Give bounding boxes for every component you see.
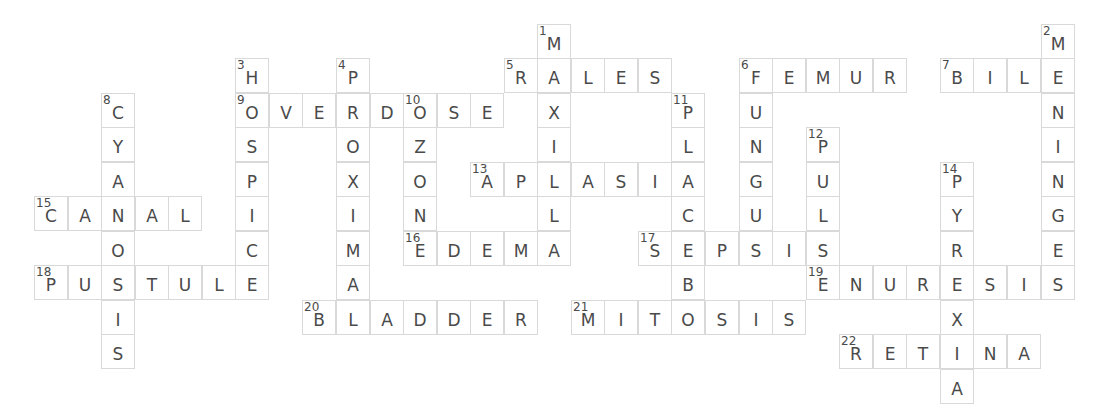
crossword-cell[interactable]: G xyxy=(739,162,773,197)
crossword-cell[interactable]: I xyxy=(604,300,638,335)
crossword-cell[interactable]: A xyxy=(336,265,370,300)
crossword-cell[interactable]: N xyxy=(839,265,873,300)
crossword-cell[interactable]: N xyxy=(101,196,135,231)
crossword-cell[interactable]: L xyxy=(671,127,705,162)
crossword-cell[interactable]: 3H xyxy=(235,58,269,93)
crossword-cell[interactable]: 18P xyxy=(34,265,68,300)
crossword-cell[interactable]: 8C xyxy=(101,93,135,128)
crossword-cell[interactable]: M xyxy=(806,58,840,93)
crossword-cell[interactable]: E xyxy=(671,231,705,266)
crossword-cell[interactable]: I xyxy=(1041,127,1075,162)
crossword-cell[interactable]: O xyxy=(671,300,705,335)
crossword-cell[interactable]: N xyxy=(1041,93,1075,128)
crossword-cell[interactable]: I xyxy=(1007,265,1041,300)
crossword-cell[interactable]: Y xyxy=(940,196,974,231)
crossword-cell[interactable]: D xyxy=(437,300,471,335)
crossword-cell[interactable]: 7B xyxy=(940,58,974,93)
crossword-cell[interactable]: U xyxy=(839,58,873,93)
crossword-cell[interactable]: T xyxy=(135,265,169,300)
crossword-cell[interactable]: R xyxy=(504,300,538,335)
crossword-cell[interactable]: C xyxy=(671,196,705,231)
crossword-cell[interactable]: R xyxy=(906,265,940,300)
crossword-cell[interactable]: D xyxy=(437,231,471,266)
crossword-cell[interactable]: E xyxy=(470,300,504,335)
crossword-cell[interactable]: Y xyxy=(101,127,135,162)
crossword-cell[interactable]: S xyxy=(1041,265,1075,300)
crossword-cell[interactable]: S xyxy=(235,127,269,162)
crossword-cell[interactable]: V xyxy=(269,93,303,128)
crossword-cell[interactable]: I xyxy=(973,58,1007,93)
crossword-cell[interactable]: 21M xyxy=(571,300,605,335)
crossword-cell[interactable]: T xyxy=(906,334,940,369)
crossword-cell[interactable]: 20B xyxy=(302,300,336,335)
crossword-cell[interactable]: E xyxy=(1041,231,1075,266)
crossword-cell[interactable]: S xyxy=(437,93,471,128)
crossword-cell[interactable]: M xyxy=(336,231,370,266)
crossword-cell[interactable]: M xyxy=(504,231,538,266)
crossword-cell[interactable]: 2M xyxy=(1041,24,1075,59)
crossword-cell[interactable]: E xyxy=(470,93,504,128)
crossword-cell[interactable]: 5R xyxy=(504,58,538,93)
crossword-cell[interactable]: U xyxy=(168,265,202,300)
crossword-cell[interactable]: L xyxy=(806,196,840,231)
crossword-cell[interactable]: 9O xyxy=(235,93,269,128)
crossword-cell[interactable]: 17S xyxy=(638,231,672,266)
crossword-cell[interactable]: 14P xyxy=(940,162,974,197)
crossword-cell[interactable]: I xyxy=(336,196,370,231)
crossword-cell[interactable]: E xyxy=(302,93,336,128)
crossword-cell[interactable]: 22R xyxy=(839,334,873,369)
crossword-cell[interactable]: 13A xyxy=(470,162,504,197)
crossword-cell[interactable]: E xyxy=(873,334,907,369)
crossword-cell[interactable]: A xyxy=(370,300,404,335)
crossword-cell[interactable]: 11P xyxy=(671,93,705,128)
crossword-cell[interactable]: L xyxy=(202,265,236,300)
crossword-cell[interactable]: A xyxy=(671,162,705,197)
crossword-cell[interactable]: 16E xyxy=(403,231,437,266)
crossword-cell[interactable]: I xyxy=(235,196,269,231)
crossword-cell[interactable]: A xyxy=(537,231,571,266)
crossword-cell[interactable]: A xyxy=(1007,334,1041,369)
crossword-cell[interactable]: X xyxy=(537,93,571,128)
crossword-cell[interactable]: A xyxy=(537,58,571,93)
crossword-cell[interactable]: I xyxy=(772,231,806,266)
crossword-cell[interactable]: S xyxy=(604,162,638,197)
crossword-cell[interactable]: S xyxy=(101,265,135,300)
crossword-cell[interactable]: L xyxy=(336,300,370,335)
crossword-cell[interactable]: N xyxy=(403,196,437,231)
crossword-cell[interactable]: L xyxy=(1007,58,1041,93)
crossword-cell[interactable]: L xyxy=(537,196,571,231)
crossword-cell[interactable]: T xyxy=(638,300,672,335)
crossword-cell[interactable]: R xyxy=(336,93,370,128)
crossword-cell[interactable]: 12P xyxy=(806,127,840,162)
crossword-cell[interactable]: S xyxy=(705,300,739,335)
crossword-cell[interactable]: N xyxy=(973,334,1007,369)
crossword-cell[interactable]: A xyxy=(68,196,102,231)
crossword-cell[interactable]: O xyxy=(101,231,135,266)
crossword-cell[interactable]: D xyxy=(370,93,404,128)
crossword-cell[interactable]: I xyxy=(638,162,672,197)
crossword-cell[interactable]: A xyxy=(101,162,135,197)
crossword-cell[interactable]: C xyxy=(235,231,269,266)
crossword-cell[interactable]: S xyxy=(973,265,1007,300)
crossword-cell[interactable]: L xyxy=(571,58,605,93)
crossword-cell[interactable]: S xyxy=(101,334,135,369)
crossword-cell[interactable]: E xyxy=(604,58,638,93)
crossword-cell[interactable]: 15C xyxy=(34,196,68,231)
crossword-cell[interactable]: Z xyxy=(403,127,437,162)
crossword-cell[interactable]: P xyxy=(705,231,739,266)
crossword-cell[interactable]: E xyxy=(1041,58,1075,93)
crossword-cell[interactable]: E xyxy=(940,265,974,300)
crossword-cell[interactable]: N xyxy=(739,127,773,162)
crossword-cell[interactable]: S xyxy=(772,300,806,335)
crossword-cell[interactable]: U xyxy=(739,93,773,128)
crossword-cell[interactable]: 6F xyxy=(739,58,773,93)
crossword-cell[interactable]: I xyxy=(537,127,571,162)
crossword-cell[interactable]: E xyxy=(470,231,504,266)
crossword-cell[interactable]: X xyxy=(336,162,370,197)
crossword-cell[interactable]: A xyxy=(940,369,974,404)
crossword-cell[interactable]: E xyxy=(772,58,806,93)
crossword-cell[interactable]: 19E xyxy=(806,265,840,300)
crossword-cell[interactable]: G xyxy=(1041,196,1075,231)
crossword-cell[interactable]: U xyxy=(739,196,773,231)
crossword-cell[interactable]: B xyxy=(671,265,705,300)
